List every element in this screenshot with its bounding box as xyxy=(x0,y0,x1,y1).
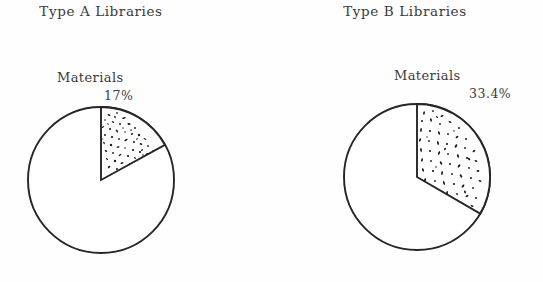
series-label-materials-a: Materials xyxy=(57,70,124,85)
chart-panel-type-b: Type B Libraries Materials 33.4% xyxy=(271,0,543,282)
panel-title-type-a: Type A Libraries xyxy=(0,3,237,19)
series-label-materials-b: Materials xyxy=(394,68,461,83)
value-label-materials-a: 17% xyxy=(104,88,133,103)
value-label-materials-b: 33.4% xyxy=(469,86,511,101)
chart-panel-type-a: Type A Libraries Materials 17% xyxy=(0,0,272,282)
panel-title-type-b: Type B Libraries xyxy=(269,3,541,19)
figure-canvas: Type A Libraries Materials 17% xyxy=(0,0,543,282)
pie-chart-type-a xyxy=(25,104,177,256)
pie-chart-type-b xyxy=(341,101,493,253)
